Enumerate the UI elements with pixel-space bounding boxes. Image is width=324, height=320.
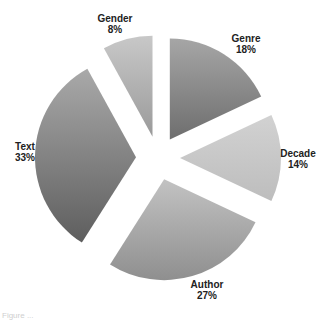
label-genre: Genre 18% xyxy=(232,33,261,55)
pie-slices xyxy=(35,36,281,280)
label-genre-percent: 18% xyxy=(232,44,261,55)
pie-slice-text xyxy=(35,69,136,243)
label-author-percent: 27% xyxy=(191,290,224,301)
label-genre-name: Genre xyxy=(232,33,261,44)
label-text: Text 33% xyxy=(15,141,35,163)
label-text-name: Text xyxy=(15,141,35,152)
label-gender-percent: 8% xyxy=(97,24,132,35)
label-decade-name: Decade xyxy=(280,148,316,159)
label-gender-name: Gender xyxy=(97,13,132,24)
label-author: Author 27% xyxy=(191,279,224,301)
label-text-percent: 33% xyxy=(15,152,35,163)
label-author-name: Author xyxy=(191,279,224,290)
label-gender: Gender 8% xyxy=(97,13,132,35)
pie-slice-author xyxy=(110,179,256,280)
label-decade-percent: 14% xyxy=(280,159,316,170)
label-decade: Decade 14% xyxy=(280,148,316,170)
figure-caption: Figure ... xyxy=(2,311,34,320)
pie-slice-decade xyxy=(180,115,281,201)
